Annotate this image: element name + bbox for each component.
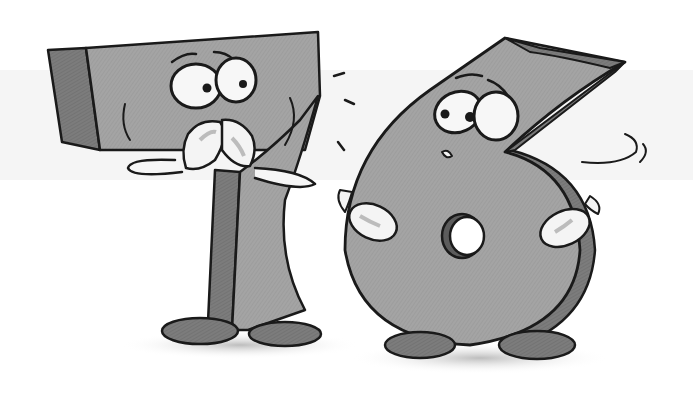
cartoon-numbers-svg [0, 0, 693, 396]
seven-left-shoe [162, 318, 238, 344]
seven-right-shoe [249, 322, 321, 346]
seven-right-eye [216, 58, 256, 102]
six-left-shoe [385, 332, 455, 358]
six-hole [450, 217, 484, 255]
seven-left-eye [171, 64, 221, 108]
six-right-eye [474, 92, 518, 140]
six-right-shoe [499, 331, 575, 359]
illustration [0, 0, 693, 396]
